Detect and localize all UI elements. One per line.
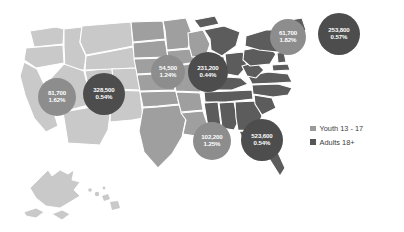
legend-swatch-icon <box>310 126 316 132</box>
bubble-percent: 0.57% <box>331 34 348 41</box>
bubble-youth-south: 102,200 1.25% <box>193 122 231 160</box>
bubble-percent: 1.25% <box>204 141 221 148</box>
legend-item-youth: Youth 13 - 17 <box>310 124 402 133</box>
bubble-adult-west: 328,500 0.54% <box>83 73 125 115</box>
bubble-percent: 1.82% <box>280 37 297 44</box>
bubble-adult-northeast: 253,800 0.57% <box>318 13 360 55</box>
bubble-adult-midwest: 231,200 0.44% <box>188 52 228 92</box>
legend-item-adults: Adults 18+ <box>310 138 402 147</box>
bubble-percent: 0.54% <box>96 94 113 101</box>
chart-legend: Youth 13 - 17 Adults 18+ <box>310 124 402 151</box>
map-region-alaska <box>24 170 80 220</box>
legend-item-label: Adults 18+ <box>320 138 355 147</box>
bubble-percent: 1.62% <box>49 97 66 104</box>
bubble-youth-west: 81,700 1.62% <box>38 78 76 116</box>
bubble-percent: 0.54% <box>254 140 271 147</box>
map-chart: 81,700 1.62% 328,500 0.54% 54,500 1.24% … <box>0 0 404 232</box>
map-region-west <box>20 22 143 145</box>
bubble-percent: 0.44% <box>200 72 217 79</box>
bubble-percent: 1.24% <box>160 72 177 79</box>
bubble-youth-northeast: 61,700 1.82% <box>270 19 306 55</box>
legend-swatch-icon <box>310 139 316 145</box>
bubble-adult-south: 523,600 0.54% <box>241 119 283 161</box>
bubble-youth-midwest: 54,500 1.24% <box>151 55 185 89</box>
legend-item-label: Youth 13 - 17 <box>320 124 364 133</box>
map-region-hawaii <box>88 187 120 210</box>
